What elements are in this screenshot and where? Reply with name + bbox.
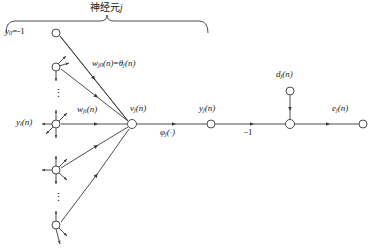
bias-weight-label: wj0(n)=θj(n) [92, 59, 135, 69]
node-input-main [52, 120, 60, 128]
node-bias-input [52, 29, 60, 37]
diagram-canvas [0, 0, 375, 250]
activation-function-label: φj(·) [160, 128, 175, 138]
node-desired-response [286, 87, 294, 95]
input-signal-label: yi(n) [16, 118, 32, 128]
node-summing-junction [128, 120, 137, 129]
node-input-bottom [52, 221, 60, 229]
figure-title: 神经元j [90, 3, 123, 14]
neuron-brace [6, 15, 208, 33]
induced-local-field-label: vj(n) [130, 104, 146, 114]
synaptic-weight-label: wji(n) [77, 105, 97, 115]
node-output [207, 120, 215, 128]
input-node-radiating-arrows [42, 56, 69, 244]
node-input-upper [52, 63, 60, 71]
node-error-output [359, 120, 367, 128]
node-input-lower [52, 166, 60, 174]
output-signal-label: yj(n) [199, 104, 215, 114]
neuron-signal-flow-diagram: 神经元j y0=-1 wj0(n)=θj(n) yi(n) wji(n) vj(… [0, 0, 375, 250]
bias-input-label: y0=-1 [5, 27, 25, 37]
vertical-dots-upper: ⋮ [53, 88, 64, 99]
forward-path-edges [137, 95, 359, 124]
error-signal-label: ej(n) [332, 104, 348, 114]
desired-response-label: dj(n) [276, 70, 293, 80]
node-error-summing [286, 120, 295, 129]
vertical-dots-lower: ⋮ [53, 192, 64, 203]
inverter-gain-label: −1 [243, 128, 253, 137]
